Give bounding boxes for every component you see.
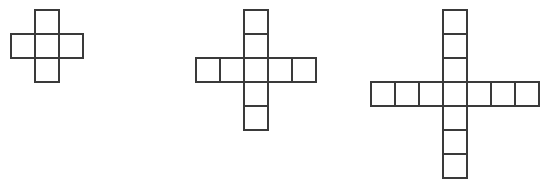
unit-square [419, 82, 443, 106]
unit-square [443, 82, 467, 106]
unit-square [35, 58, 59, 82]
unit-square [292, 58, 316, 82]
unit-square [443, 58, 467, 82]
unit-square [244, 34, 268, 58]
unit-square [35, 10, 59, 34]
unit-square [443, 130, 467, 154]
unit-square [35, 34, 59, 58]
unit-square [244, 10, 268, 34]
unit-square [515, 82, 539, 106]
unit-square [244, 106, 268, 130]
unit-square [196, 58, 220, 82]
unit-square [491, 82, 515, 106]
cross-figure-3 [371, 10, 539, 178]
unit-square [371, 82, 395, 106]
unit-square [11, 34, 35, 58]
cross-figures-svg [0, 0, 542, 179]
cross-figure-2 [196, 10, 316, 130]
unit-square [244, 82, 268, 106]
unit-square [220, 58, 244, 82]
unit-square [268, 58, 292, 82]
unit-square [395, 82, 419, 106]
unit-square [244, 58, 268, 82]
unit-square [443, 154, 467, 178]
cross-figure-1 [11, 10, 83, 82]
unit-square [443, 106, 467, 130]
unit-square [59, 34, 83, 58]
unit-square [467, 82, 491, 106]
figure-sequence-canvas [0, 0, 542, 179]
unit-square [443, 34, 467, 58]
unit-square [443, 10, 467, 34]
